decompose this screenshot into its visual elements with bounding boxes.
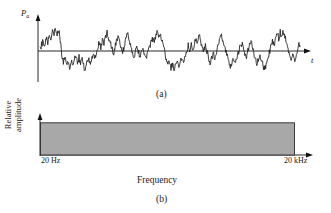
panel-b-x-tick-left: 20 Hz <box>41 157 60 165</box>
panel-a-y-axis-arrowhead <box>36 14 41 21</box>
panel-a-x-axis-label: t <box>311 56 313 65</box>
panel-a-noise-waveform <box>40 28 300 71</box>
panel-a-y-axis-label-subscript: a <box>26 13 29 19</box>
panel-b-y-axis-label-line2: amplitude <box>13 77 23 153</box>
panel-b-x-tick-right: 20 kHz <box>284 157 307 165</box>
panel-a-y-axis-label: Pa <box>21 9 29 18</box>
panel-b-y-axis-arrowhead <box>38 113 43 120</box>
figure-root: Pa t (a) Relative amplitude 20 Hz 20 kHz… <box>0 0 331 213</box>
panel-a-group <box>36 14 311 82</box>
panel-b-y-axis-label: Relative amplitude <box>3 77 25 153</box>
panel-b-y-axis-label-line1: Relative <box>3 77 13 153</box>
panel-b-spectrum-band <box>41 123 295 155</box>
panel-a-x-axis-arrowhead <box>304 49 311 54</box>
panel-a-caption: (a) <box>156 90 167 100</box>
panel-b-caption: (b) <box>156 195 167 205</box>
panel-b-group <box>38 113 313 157</box>
panel-b-x-axis-label: Frequency <box>137 176 177 186</box>
